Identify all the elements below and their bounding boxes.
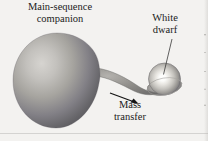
scan-artifact-bottom-rule	[0, 133, 208, 134]
label-white-dwarf-line1: White	[152, 12, 178, 23]
main-sequence-companion-star	[13, 33, 100, 128]
binary-star-mass-transfer-figure: Main-sequence companion White dwarf Mass…	[0, 0, 208, 141]
label-mass-transfer-line2: transfer	[100, 111, 160, 123]
label-companion-line2: companion	[8, 13, 112, 25]
label-mass-transfer: Mass transfer	[100, 99, 160, 122]
label-companion-line1: Main-sequence	[28, 1, 92, 12]
label-mass-transfer-line1: Mass	[119, 99, 141, 110]
label-white-dwarf: White dwarf	[140, 12, 190, 35]
label-main-sequence-companion: Main-sequence companion	[8, 1, 112, 24]
label-white-dwarf-line2: dwarf	[140, 24, 190, 36]
scan-artifact-speckles	[204, 30, 206, 110]
